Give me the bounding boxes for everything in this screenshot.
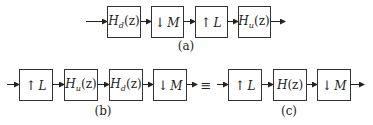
label-a-down: ↓M [154, 16, 179, 29]
label-c-h: H(z) [277, 79, 303, 91]
down-arrow-icon: ↓ [157, 78, 168, 93]
caption-c: (c) [281, 105, 297, 117]
up-arrow-icon: ↑ [26, 78, 37, 93]
label-b-hu: Hu(z) [65, 78, 96, 93]
label-b-hd: Hd(z) [110, 78, 141, 93]
up-arrow-icon: ↑ [201, 15, 212, 30]
caption-a: (a) [178, 40, 195, 52]
block-diagram-canvas [0, 0, 373, 125]
label-a-up: ↑L [201, 16, 222, 29]
down-arrow-icon: ↓ [321, 78, 332, 93]
equivalence-symbol: ≡ [201, 79, 212, 92]
label-b-down: ↓M [157, 79, 182, 92]
up-arrow-icon: ↑ [235, 78, 246, 93]
down-arrow-icon: ↓ [154, 15, 165, 30]
label-b-up: ↑L [26, 79, 47, 92]
label-a-hd: Hd(z) [108, 15, 139, 30]
caption-b: (b) [94, 105, 111, 117]
label-c-up: ↑L [235, 79, 256, 92]
label-c-down: ↓M [321, 79, 346, 92]
label-a-hu: Hu(z) [238, 15, 269, 30]
